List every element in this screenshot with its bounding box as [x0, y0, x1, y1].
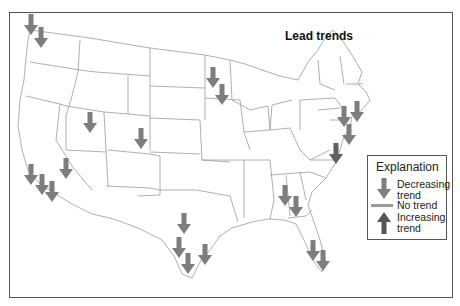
legend-label-increasing: Increasing trend — [397, 212, 445, 234]
legend-label-decreasing: Decreasing trend — [397, 179, 450, 201]
arrow-down-icon — [83, 112, 97, 134]
map-title: Lead trends — [285, 29, 353, 43]
legend: Explanation Decreasing trend No trend In… — [367, 155, 447, 240]
arrow-down-icon — [350, 101, 364, 123]
arrow-down-icon — [329, 143, 343, 165]
arrow-down-icon — [316, 250, 330, 272]
arrow-down-icon — [342, 124, 356, 146]
arrow-down-icon — [215, 84, 229, 106]
us-state-map — [0, 0, 460, 306]
arrow-down-icon — [59, 158, 73, 180]
dash-icon — [371, 203, 393, 208]
arrow-up-icon — [377, 212, 391, 234]
arrow-down-icon — [377, 178, 391, 200]
arrow-down-icon — [181, 253, 195, 275]
arrow-down-icon — [198, 244, 212, 266]
arrow-down-icon — [45, 181, 59, 203]
arrow-down-icon — [134, 128, 148, 150]
arrow-down-icon — [34, 27, 48, 49]
legend-label-no-trend: No trend — [397, 200, 437, 211]
legend-title: Explanation — [376, 160, 439, 174]
arrow-down-icon — [177, 213, 191, 235]
arrow-down-icon — [289, 196, 303, 218]
